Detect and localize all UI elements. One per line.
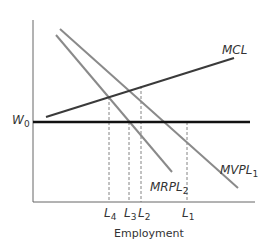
mrpl2-label: MRPL2: [150, 181, 188, 196]
mrpl2-label-sub: 2: [183, 186, 189, 196]
l1-main: L: [182, 206, 189, 220]
x-axis-title: Employment: [114, 228, 184, 239]
mvpl1-label: MVPL1: [220, 164, 258, 179]
l3-main: L: [124, 206, 131, 220]
l4-sub: 4: [111, 212, 117, 222]
l4-main: L: [104, 206, 111, 220]
tick-label-l2: L2: [138, 207, 150, 222]
w0-label: W0: [12, 114, 30, 129]
mcl-label: MCL: [222, 44, 247, 56]
tick-label-l1: L1: [182, 207, 194, 222]
l2-main: L: [138, 206, 145, 220]
mvpl1-label-sub: 1: [252, 169, 258, 179]
mrpl2-line: [56, 35, 172, 172]
l2-sub: 2: [145, 212, 151, 222]
mcl-line: [46, 58, 234, 117]
mcl-label-text: MCL: [222, 43, 247, 57]
tick-label-l3: L3: [124, 207, 136, 222]
mvpl1-label-main: MVPL: [220, 163, 252, 177]
l3-sub: 3: [131, 212, 137, 222]
w0-label-sub: 0: [24, 119, 30, 129]
mvpl1-line: [60, 29, 238, 188]
l1-sub: 1: [189, 212, 195, 222]
tick-label-l4: L4: [104, 207, 116, 222]
w0-label-main: W: [12, 113, 24, 127]
mrpl2-label-main: MRPL: [150, 180, 183, 194]
